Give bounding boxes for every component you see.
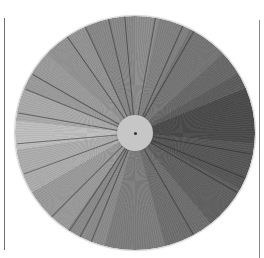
left-frame-line — [4, 18, 5, 250]
center-hub — [117, 115, 153, 151]
grayscale-wheel — [15, 16, 255, 250]
right-frame-line — [259, 20, 260, 258]
center-pin — [134, 132, 137, 135]
